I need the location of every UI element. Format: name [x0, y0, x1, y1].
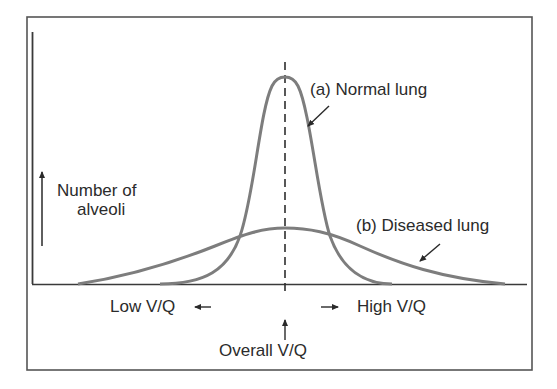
y-axis-label-line1: Number of — [57, 181, 136, 201]
normal-lung-label: (a) Normal lung — [310, 80, 427, 100]
diseased-lung-label: (b) Diseased lung — [356, 216, 489, 236]
low-vq-label: Low V/Q — [110, 297, 175, 317]
diseased-lung-pointer-arrow-icon — [420, 244, 440, 261]
overall-vq-label: Overall V/Q — [219, 341, 307, 361]
y-axis-label-line2: alveoli — [77, 200, 125, 220]
normal-lung-pointer-arrow-icon — [308, 106, 329, 126]
high-vq-label: High V/Q — [357, 297, 426, 317]
diseased-lung-curve — [78, 228, 505, 284]
vq-distribution-diagram: Number of alveoli (a) Normal lung (b) Di… — [0, 0, 557, 389]
